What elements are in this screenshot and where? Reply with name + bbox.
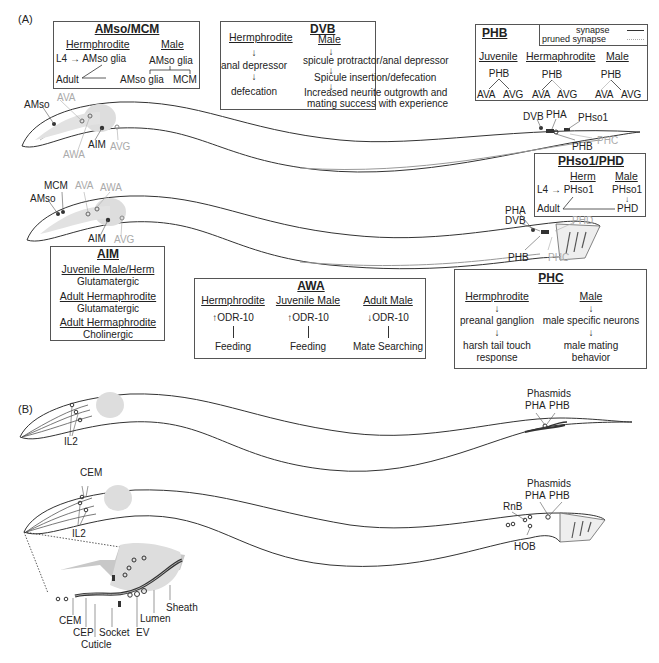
label-avg-2: AVG	[114, 234, 134, 245]
inset-label-ev: EV	[136, 627, 149, 638]
inset-label-cem: CEM	[59, 615, 81, 626]
label-amso-2: AMso	[30, 193, 56, 204]
inset-label-cuticle: Cuticle	[81, 639, 112, 650]
label-il2-2: IL2	[72, 528, 86, 539]
label-phc-2: PHC	[548, 252, 569, 263]
aim-title: AIM	[97, 249, 119, 260]
label-awa: AWA	[63, 149, 85, 160]
label-dvb-2: DVB	[505, 215, 526, 226]
amso-mcm-box: AMso/MCM Hermphrodite Male L4 → AMso gli…	[53, 21, 200, 89]
label-mcm: MCM	[44, 180, 68, 191]
label-phb-2: PHB	[508, 252, 529, 263]
label-phd: PHD	[572, 215, 593, 226]
dvb-male-header: Male	[318, 34, 341, 45]
dvb-herm-step-2: defecation	[231, 86, 277, 97]
amso-adult: Adult	[56, 74, 79, 85]
dvb-box: DVB Hermphrodite Male ↓ anal depressor ↓…	[220, 21, 376, 110]
phb-box: PHB synapse pruned synapse Juvenile Herm…	[475, 24, 648, 101]
label-hob: HOB	[514, 541, 536, 552]
label-cem: CEM	[80, 467, 102, 478]
amso-male-right: MCM	[173, 74, 197, 85]
phc-title: PHC	[538, 273, 563, 284]
phc-box: PHC Hermphrodite Male ↓ ↓ preanal gangli…	[454, 269, 647, 369]
label-dvb: DVB	[523, 111, 544, 122]
label-pha: PHA	[546, 109, 567, 120]
label-phb-3: PHB	[549, 400, 570, 411]
dvb-male-step-4: mating success with experience	[307, 98, 448, 109]
label-pha-3: PHA	[525, 400, 546, 411]
label-phso1: PHso1	[578, 112, 608, 123]
label-pha-4: PHA	[525, 490, 546, 501]
label-phb: PHB	[572, 141, 593, 152]
label-aim: AIM	[88, 139, 106, 150]
label-phasmids-2: Phasmids	[527, 478, 571, 489]
dvb-herm-step-1: anal depressor	[221, 60, 287, 71]
label-il2: IL2	[64, 436, 78, 447]
phso1-phd-box: PHso1/PHD Herm Male L4 → PHso1 PHso1 ↓ A…	[534, 153, 646, 217]
dvb-male-step-3: Increased neurite outgrowth and	[304, 87, 447, 98]
label-ava-2: AVA	[75, 180, 94, 191]
inset-label-socket: Socket	[99, 627, 130, 638]
inset-label-lumen: Lumen	[140, 613, 171, 624]
awa-title: AWA	[297, 281, 324, 292]
awa-box: AWA Hermphrodite Juvenile Male Adult Mal…	[194, 278, 426, 359]
label-ava: AVA	[57, 92, 76, 103]
label-aim-2: AIM	[88, 233, 106, 244]
dvb-herm-header: Hermphrodite	[229, 32, 293, 43]
label-phb-4: PHB	[549, 490, 570, 501]
amso-adult-target: AMso glia	[120, 74, 164, 85]
label-avg: AVG	[110, 141, 130, 152]
label-awa-2: AWA	[100, 182, 122, 193]
label-phasmids: Phasmids	[527, 388, 571, 399]
label-amso: AMso	[24, 99, 50, 110]
aim-box: AIM Juvenile Male/Herm Glutamatergic Adu…	[50, 246, 165, 341]
label-phc: PHC	[597, 135, 618, 146]
label-rnb: RnB	[503, 501, 522, 512]
inset-label-sheath: Sheath	[166, 602, 198, 613]
inset-label-cep: CEP	[73, 627, 94, 638]
dvb-male-step-1: spicule protractor/anal depressor	[303, 55, 449, 66]
